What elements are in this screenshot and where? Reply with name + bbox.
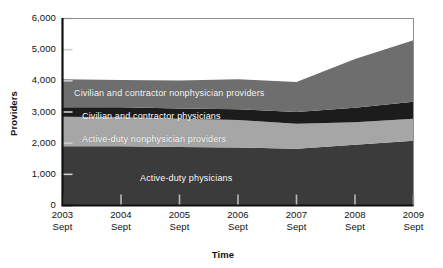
x-tick-year: 2003 <box>40 209 86 221</box>
stacked-areas <box>63 40 414 205</box>
y-tick-label: 6,000 <box>14 12 56 23</box>
x-tick-year: 2007 <box>274 209 320 221</box>
x-tick-month: Sept <box>274 221 320 233</box>
x-tick-month: Sept <box>40 221 86 233</box>
area-band-3 <box>63 40 414 112</box>
y-tick-label: 5,000 <box>14 43 56 54</box>
y-tick-label: 4,000 <box>14 74 56 85</box>
x-tick-label: 2003Sept <box>40 209 86 232</box>
series-label-0: Civilian and contractor nonphysician pro… <box>74 88 265 98</box>
x-tick-year: 2006 <box>215 209 261 221</box>
y-tick-label: 2,000 <box>14 137 56 148</box>
x-tick-label: 2006Sept <box>215 209 261 232</box>
y-tick-label: 1,000 <box>14 168 56 179</box>
x-tick-label: 2009Sept <box>391 209 437 232</box>
x-tick-label: 2005Sept <box>157 209 203 232</box>
series-label-3: Active-duty physicians <box>140 173 232 183</box>
series-label-1: Civilian and contractor physicians <box>82 111 221 121</box>
x-tick-label: 2007Sept <box>274 209 320 232</box>
x-tick-month: Sept <box>98 221 144 233</box>
y-tick-label: 3,000 <box>14 106 56 117</box>
x-tick-year: 2005 <box>157 209 203 221</box>
x-tick-month: Sept <box>332 221 378 233</box>
x-tick-year: 2004 <box>98 209 144 221</box>
chart-figure: Providers Time 01,0002,0003,0004,0005,00… <box>0 0 443 268</box>
series-label-2: Active-duty nonphysician providers <box>82 134 226 144</box>
x-tick-label: 2004Sept <box>98 209 144 232</box>
x-tick-month: Sept <box>391 221 437 233</box>
x-tick-month: Sept <box>157 221 203 233</box>
x-tick-month: Sept <box>215 221 261 233</box>
x-tick-year: 2008 <box>332 209 378 221</box>
x-tick-label: 2008Sept <box>332 209 378 232</box>
x-tick-year: 2009 <box>391 209 437 221</box>
